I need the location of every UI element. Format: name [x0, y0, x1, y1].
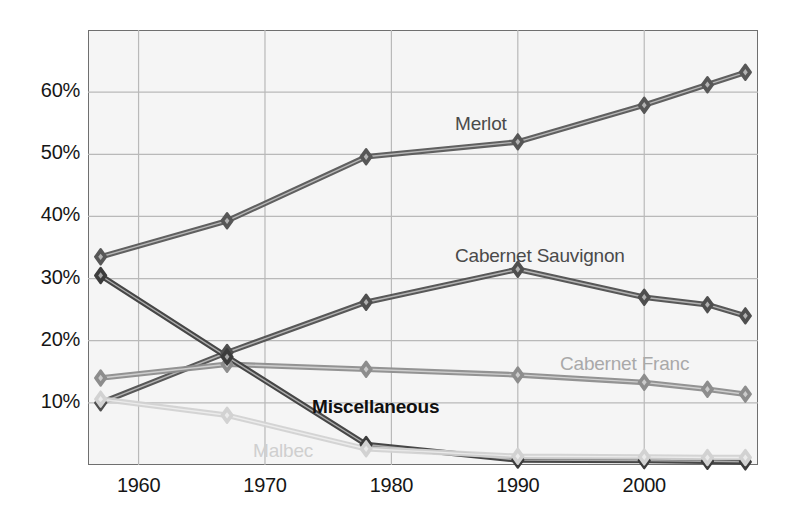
- series-label-cabernet-sauvignon: Cabernet Sauvignon: [455, 245, 625, 267]
- y-axis-tick-30: 30%: [8, 266, 80, 289]
- x-axis-tick-1980: 1980: [341, 474, 441, 497]
- y-axis-tick-40: 40%: [8, 203, 80, 226]
- line-chart: 10%20%30%40%50%60% 19601970198019902000 …: [0, 0, 807, 532]
- y-axis-tick-60: 60%: [8, 79, 80, 102]
- x-axis-tick-1960: 1960: [89, 474, 189, 497]
- series-label-cabernet-franc: Cabernet Franc: [560, 353, 689, 375]
- x-axis-tick-1990: 1990: [468, 474, 568, 497]
- y-axis-tick-50: 50%: [8, 141, 80, 164]
- y-axis-tick-10: 10%: [8, 390, 80, 413]
- chart-svg-layer: [0, 0, 807, 532]
- series-label-miscellaneous: Miscellaneous: [312, 396, 439, 418]
- y-axis-tick-20: 20%: [8, 328, 80, 351]
- series-line-highlight: [101, 72, 746, 256]
- x-axis-tick-2000: 2000: [594, 474, 694, 497]
- series-label-merlot: Merlot: [455, 113, 507, 135]
- series-label-malbec: Malbec: [253, 440, 313, 462]
- x-axis-tick-1970: 1970: [215, 474, 315, 497]
